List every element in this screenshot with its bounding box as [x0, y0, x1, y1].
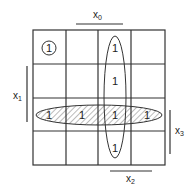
x0-label: x0 [93, 9, 102, 21]
cell-r3c2: 1 [112, 142, 118, 154]
x3-label: x3 [175, 125, 184, 137]
x1-label: x1 [13, 90, 22, 102]
cell-r2c3: 1 [144, 109, 150, 121]
cell-r2c2: 1 [112, 109, 118, 121]
cell-r2c0: 1 [46, 109, 52, 121]
group-column-ellipse [104, 36, 126, 158]
cell-r2c1: 1 [79, 109, 85, 121]
kmap-grid [33, 30, 165, 165]
x2-label: x2 [126, 173, 135, 185]
cell-r0c2: 1 [112, 42, 118, 54]
cell-r0c0: 1 [46, 42, 52, 54]
karnaugh-map: 1 1 1 1 1 1 1 1 x0 x1 x2 x3 [0, 0, 195, 191]
cell-r1c2: 1 [112, 75, 118, 87]
